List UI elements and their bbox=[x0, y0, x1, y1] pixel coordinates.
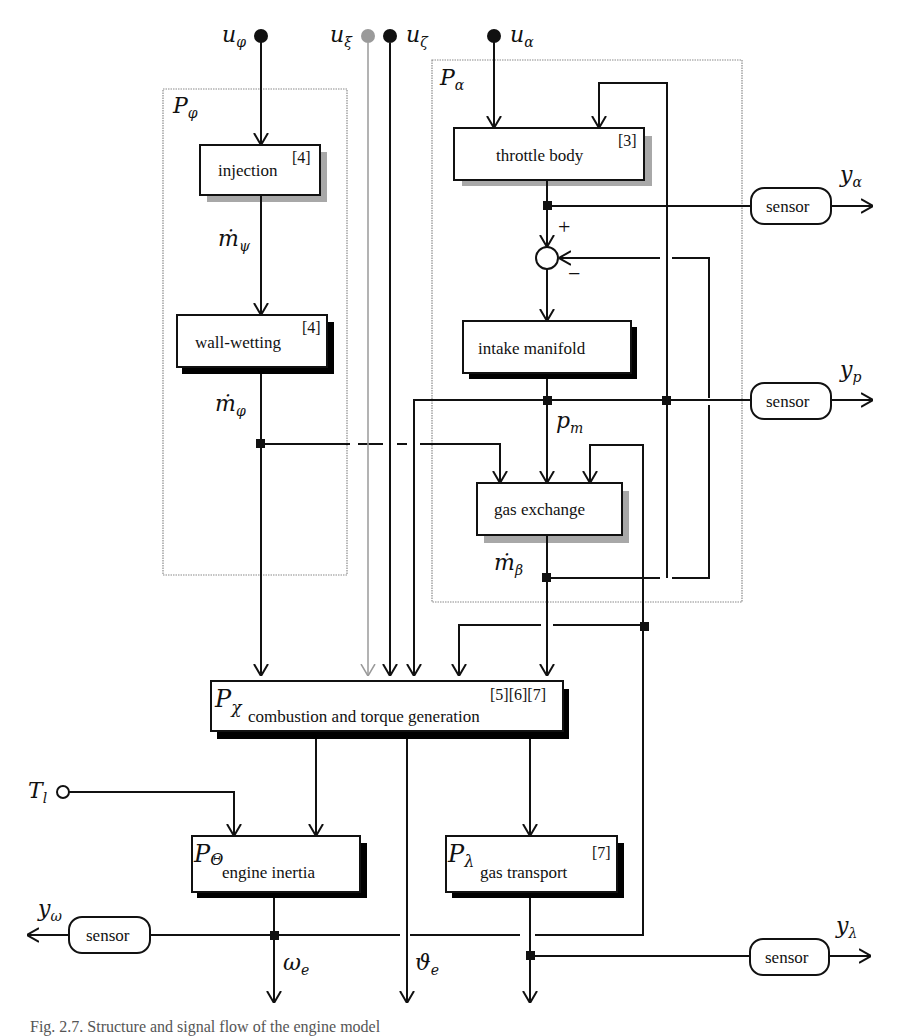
junction-dot bbox=[542, 573, 551, 582]
block-engine-inertia-label: engine inertia bbox=[222, 863, 315, 882]
sensor-p-label: sensor bbox=[766, 392, 810, 411]
junction-dot bbox=[640, 622, 649, 631]
block-throttle-body-ref: [3] bbox=[618, 132, 637, 149]
signal-p-m: pm bbox=[556, 408, 583, 436]
input-label-u-xi: uξ bbox=[330, 22, 353, 50]
signal-theta-e: ϑe bbox=[415, 950, 439, 978]
input-node-u-zeta bbox=[383, 29, 397, 43]
input-label-u-zeta: uζ bbox=[406, 22, 429, 50]
output-y-p: yp bbox=[839, 357, 861, 385]
block-gas-transport-label: gas transport bbox=[480, 863, 568, 882]
signal-m-beta: ṁβ bbox=[494, 550, 523, 578]
block-intake-manifold-label: intake manifold bbox=[478, 339, 586, 358]
region-p-phi-label: Pφ bbox=[172, 93, 198, 121]
input-label-u-alpha: uα bbox=[510, 22, 534, 50]
block-combustion-ref: [5][6][7] bbox=[490, 686, 546, 703]
signal-m-phi: ṁφ bbox=[215, 391, 246, 419]
block-gas-exchange-label: gas exchange bbox=[494, 500, 585, 519]
sum-minus-sign: − bbox=[568, 261, 580, 286]
output-y-alpha: yα bbox=[839, 162, 862, 190]
region-p-alpha-label: Pα bbox=[439, 65, 465, 93]
block-injection-ref: [4] bbox=[292, 149, 311, 166]
block-wall-wetting-ref: [4] bbox=[302, 319, 321, 336]
input-label-u-phi: uφ bbox=[222, 22, 246, 50]
input-label-t-l: Tl bbox=[28, 778, 47, 806]
sensor-omega-label: sensor bbox=[86, 926, 130, 945]
block-injection-label: injection bbox=[218, 161, 278, 180]
output-y-omega: yω bbox=[37, 896, 62, 924]
block-throttle-body-label: throttle body bbox=[496, 146, 584, 165]
block-gas-transport-ref: [7] bbox=[592, 844, 611, 861]
block-wall-wetting-label: wall-wetting bbox=[195, 333, 281, 352]
sum-plus-sign: + bbox=[558, 214, 570, 239]
figure-caption: Fig. 2.7. Structure and signal flow of t… bbox=[30, 1018, 380, 1036]
block-combustion-label: combustion and torque generation bbox=[248, 707, 480, 726]
sensor-lambda-label: sensor bbox=[765, 948, 809, 967]
signal-omega-e: ωe bbox=[283, 950, 309, 978]
input-node-u-xi bbox=[361, 29, 375, 43]
output-y-lambda: yλ bbox=[835, 913, 857, 941]
sensor-alpha-label: sensor bbox=[766, 197, 810, 216]
input-node-t-l bbox=[57, 786, 69, 798]
signal-m-psi: ṁψ bbox=[218, 226, 251, 254]
summing-junction bbox=[536, 247, 558, 269]
